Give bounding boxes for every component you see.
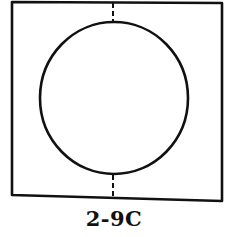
- diagram-canvas: [0, 0, 228, 237]
- figure-2-9c: 2-9C: [0, 0, 228, 237]
- circle-shape: [40, 22, 188, 174]
- square-frame: [12, 2, 222, 201]
- figure-label: 2-9C: [0, 206, 228, 232]
